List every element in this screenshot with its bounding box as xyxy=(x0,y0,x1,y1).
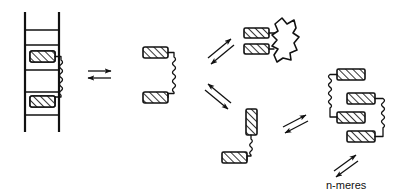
hatched-block-vertical xyxy=(246,109,257,135)
hatched-block xyxy=(347,131,375,142)
wavy-linker-right xyxy=(375,99,385,137)
equilibrium-diagram: n-meres xyxy=(0,0,407,194)
state-bent-dimer xyxy=(222,109,257,163)
hatched-block xyxy=(244,28,269,38)
state-free-dimer xyxy=(143,47,176,103)
equilibrium-arrow-up-right xyxy=(208,39,234,64)
hatched-block-fill xyxy=(30,96,55,107)
hatched-block xyxy=(337,69,365,80)
n-meres-label: n-meres xyxy=(326,179,367,191)
hatched-block-horizontal xyxy=(222,152,247,163)
hatched-block xyxy=(244,44,269,54)
state-oligomer xyxy=(329,69,385,142)
hatched-block-fill xyxy=(30,51,55,62)
hatched-block xyxy=(143,92,168,103)
figure-canvas: n-meres xyxy=(0,0,407,194)
equilibrium-arrow-horizontal xyxy=(88,71,111,78)
wavy-linker xyxy=(247,135,252,160)
state-ladder-bound xyxy=(25,12,63,132)
hatched-block xyxy=(143,47,168,58)
hatched-block xyxy=(347,93,375,104)
wavy-linker-left xyxy=(329,75,338,118)
globule-shape xyxy=(272,18,299,62)
equilibrium-arrow-n-meres xyxy=(334,155,358,177)
equilibrium-arrow-right-lower xyxy=(283,115,308,133)
wavy-linker xyxy=(168,53,176,98)
state-globule-bound xyxy=(244,18,299,62)
equilibrium-arrow-down-right xyxy=(205,84,231,109)
hatched-block xyxy=(337,112,365,123)
